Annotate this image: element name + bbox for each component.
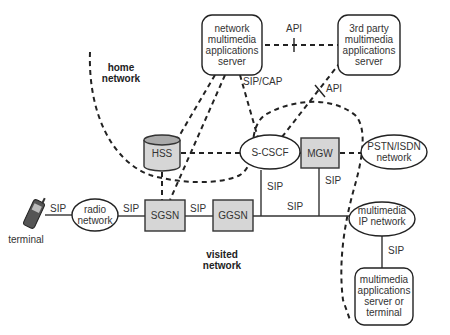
nmas-node: network multimedia applications server bbox=[202, 15, 262, 75]
sip-label-mgw: SIP bbox=[325, 175, 341, 186]
svg-text:3rd party: 3rd party bbox=[349, 23, 388, 34]
sgsn-node: SGSN bbox=[145, 200, 185, 231]
svg-text:radio: radio bbox=[84, 204, 107, 215]
svg-text:network: network bbox=[376, 152, 412, 163]
home-network-label-2: network bbox=[102, 73, 141, 84]
svg-text:HSS: HSS bbox=[152, 148, 173, 159]
svg-text:GGSN: GGSN bbox=[218, 210, 247, 221]
third-party-server-node: 3rd party multimedia applications server bbox=[338, 15, 400, 75]
radio-network-node: radio network bbox=[72, 199, 118, 231]
svg-text:PSTN/ISDN: PSTN/ISDN bbox=[367, 141, 420, 152]
svg-text:SGSN: SGSN bbox=[151, 210, 179, 221]
home-network-label: home bbox=[108, 62, 135, 73]
svg-text:S-CSCF: S-CSCF bbox=[251, 147, 288, 158]
mgw-node: MGW bbox=[301, 138, 339, 168]
svg-text:MGW: MGW bbox=[307, 148, 333, 159]
svg-text:IP network: IP network bbox=[358, 216, 406, 227]
sip-label-radio-sgsn: SIP bbox=[123, 203, 139, 214]
svg-text:applications: applications bbox=[358, 285, 411, 296]
svg-text:multimedia: multimedia bbox=[360, 274, 409, 285]
visited-network-label: visited bbox=[206, 249, 238, 260]
svg-text:server or: server or bbox=[364, 296, 404, 307]
svg-text:multimedia: multimedia bbox=[345, 34, 394, 45]
sip-label-mmip-server: SIP bbox=[388, 245, 404, 256]
svg-text:multimedia: multimedia bbox=[208, 34, 257, 45]
svg-text:applications: applications bbox=[206, 45, 259, 56]
svg-text:applications: applications bbox=[343, 45, 396, 56]
svg-text:multimedia: multimedia bbox=[358, 205, 407, 216]
svg-text:server: server bbox=[355, 56, 383, 67]
ggsn-node: GGSN bbox=[213, 200, 253, 231]
sip-label-main: SIP bbox=[287, 201, 303, 212]
hss-database-icon: HSS bbox=[144, 135, 180, 171]
sip-label-terminal-radio: SIP bbox=[50, 203, 66, 214]
pstn-isdn-node: PSTN/ISDN network bbox=[361, 135, 427, 169]
svg-text:network: network bbox=[214, 23, 250, 34]
svg-text:server: server bbox=[218, 56, 246, 67]
terminal-label: terminal bbox=[8, 234, 44, 245]
sip-cap-label: SIP/CAP bbox=[243, 76, 283, 87]
scscf-node: S-CSCF bbox=[240, 135, 300, 169]
sip-label-sgsn-ggsn: SIP bbox=[190, 203, 206, 214]
svg-text:network: network bbox=[77, 215, 113, 226]
sip-label-scscf: SIP bbox=[267, 181, 283, 192]
svg-text:terminal: terminal bbox=[366, 307, 402, 318]
api-label-top: API bbox=[286, 23, 302, 34]
mobile-phone-icon bbox=[23, 194, 48, 229]
visited-network-label-2: network bbox=[203, 260, 242, 271]
multimedia-server-terminal-node: multimedia applications server or termin… bbox=[355, 268, 413, 325]
network-diagram: network multimedia applications server 3… bbox=[0, 0, 450, 335]
api-label-diagonal: API bbox=[326, 83, 342, 94]
multimedia-ip-network-node: multimedia IP network bbox=[349, 202, 415, 236]
